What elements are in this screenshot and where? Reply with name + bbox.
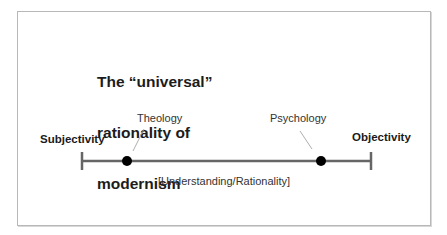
axis-graphic — [0, 0, 447, 235]
subjectivity-label: Subjectivity — [40, 133, 105, 145]
objectivity-label: Objectivity — [352, 131, 411, 143]
theology-point — [122, 156, 132, 166]
psychology-point — [316, 156, 326, 166]
axis-caption: [Understanding/Rationality] — [158, 175, 290, 187]
psychology-label: Psychology — [270, 112, 326, 124]
theology-label: Theology — [137, 112, 182, 124]
theology-leader — [133, 129, 144, 151]
psychology-leader — [300, 131, 312, 149]
